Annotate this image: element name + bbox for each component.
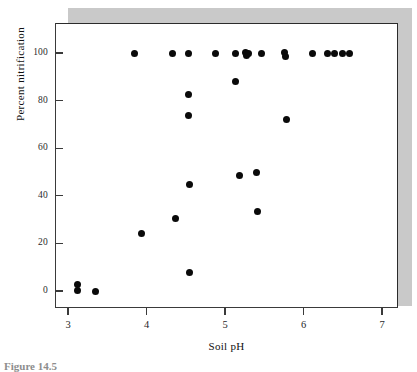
y-tick-label: 60 bbox=[22, 143, 48, 153]
x-tick-label: 5 bbox=[215, 319, 235, 330]
x-tick-mark bbox=[381, 308, 382, 315]
figure-caption: Figure 14.5 bbox=[4, 360, 57, 372]
y-axis-title: Percent nitrification bbox=[13, 0, 27, 121]
y-tick-label: 0 bbox=[22, 286, 48, 296]
x-tick-label: 6 bbox=[294, 319, 314, 330]
x-tick-label: 4 bbox=[137, 319, 157, 330]
x-tick-mark bbox=[67, 308, 68, 315]
x-tick-mark bbox=[146, 308, 147, 315]
x-tick-mark bbox=[224, 308, 225, 315]
x-axis-line bbox=[55, 307, 398, 308]
x-tick-label: 3 bbox=[58, 319, 78, 330]
y-tick-label: 40 bbox=[22, 191, 48, 201]
x-tick-label: 7 bbox=[372, 319, 392, 330]
y-tick-mark bbox=[56, 290, 63, 291]
y-tick-mark bbox=[56, 52, 63, 53]
y-tick-mark bbox=[56, 148, 63, 149]
y-tick-mark bbox=[56, 195, 63, 196]
y-tick-label: 20 bbox=[22, 238, 48, 248]
y-axis-line bbox=[55, 23, 56, 308]
x-axis-title: Soil pH bbox=[55, 340, 398, 352]
x-tick-mark bbox=[303, 308, 304, 315]
y-tick-mark bbox=[56, 100, 63, 101]
plot-frame bbox=[55, 23, 398, 308]
y-tick-mark bbox=[56, 243, 63, 244]
